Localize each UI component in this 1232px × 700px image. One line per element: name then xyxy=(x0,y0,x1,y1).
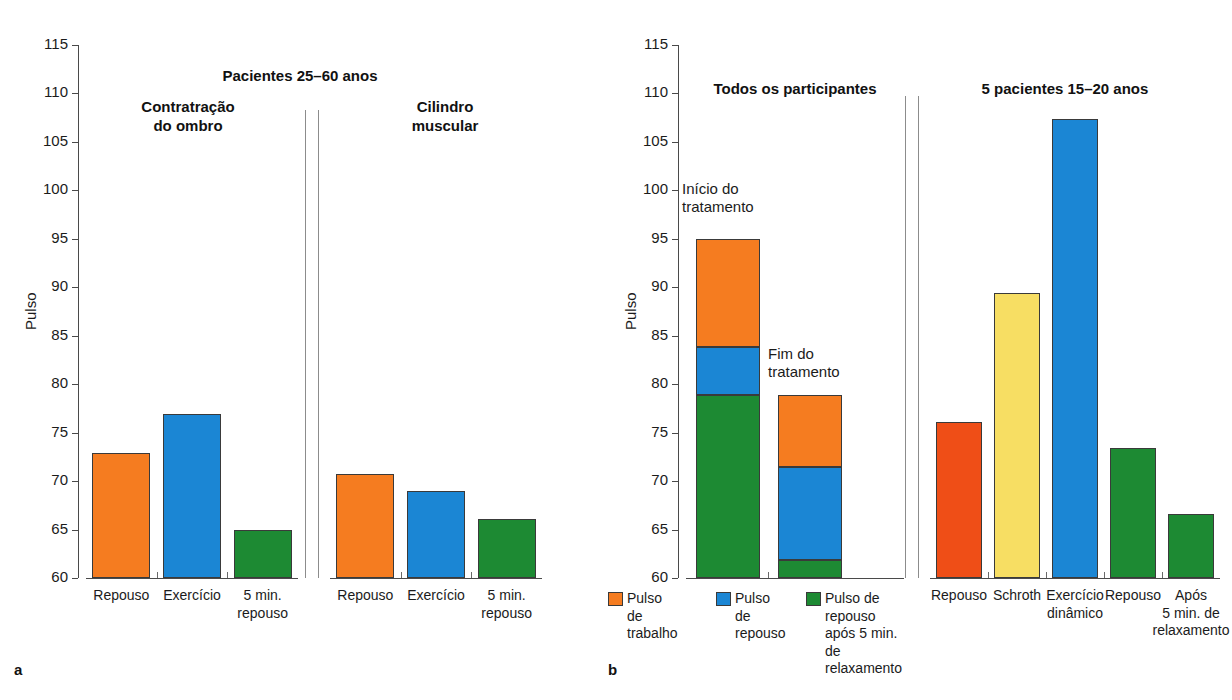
y-tick xyxy=(672,190,678,191)
stack-segment-1[interactable] xyxy=(778,467,842,560)
y-tick xyxy=(72,481,78,482)
panel-b: Todos os participantes 5 pacientes 15–20… xyxy=(600,0,1232,700)
y-tick xyxy=(672,239,678,240)
y-tick xyxy=(672,45,678,46)
y-tick xyxy=(72,45,78,46)
y-tick-label: 75 xyxy=(630,423,668,440)
y-tick xyxy=(72,142,78,143)
legend-label-line: de relaxamento xyxy=(825,643,902,678)
bar-panel-b-right-4[interactable] xyxy=(1168,514,1214,578)
y-tick xyxy=(672,384,678,385)
y-tick xyxy=(672,433,678,434)
y-tick xyxy=(72,287,78,288)
y-tick-label: 60 xyxy=(630,568,668,585)
legend-label-0: Pulso detrabalho xyxy=(627,590,678,643)
y-tick-label: 75 xyxy=(30,423,68,440)
y-tick-label: 115 xyxy=(30,35,68,52)
x-category-line: Após xyxy=(1145,587,1232,605)
bar-panel-b-right-0[interactable] xyxy=(936,422,982,578)
stack-segment-1[interactable] xyxy=(696,347,760,394)
x-category-line: dinâmico xyxy=(1029,605,1121,623)
y-tick xyxy=(672,530,678,531)
y-tick xyxy=(72,239,78,240)
x-category-panel-a-g0-2: 5 min.repouso xyxy=(208,587,318,622)
y-tick-label: 80 xyxy=(30,374,68,391)
legend-swatch-0 xyxy=(608,592,623,606)
y-tick xyxy=(672,578,678,579)
y-tick-label: 95 xyxy=(30,229,68,246)
panel-b-x-axis-left xyxy=(686,578,904,579)
x-tick xyxy=(988,572,989,578)
x-category-line: 5 min. de xyxy=(1145,605,1232,623)
bar-panel-a-g0-0[interactable] xyxy=(92,453,150,578)
y-tick-label: 100 xyxy=(30,180,68,197)
stack-segment-2[interactable] xyxy=(778,395,842,467)
panel-a-x-axis-group1 xyxy=(86,578,298,579)
panel-a-letter: a xyxy=(14,661,22,678)
x-tick xyxy=(1162,572,1163,578)
panel-b-divider-right xyxy=(918,96,919,578)
y-tick-label: 65 xyxy=(630,520,668,537)
y-tick-label: 95 xyxy=(630,229,668,246)
bar-panel-b-right-3[interactable] xyxy=(1110,448,1156,578)
y-tick xyxy=(672,287,678,288)
y-tick-label: 100 xyxy=(630,180,668,197)
y-tick xyxy=(72,190,78,191)
legend-label-line: Pulso de xyxy=(627,590,678,625)
x-tick xyxy=(471,572,472,578)
legend-label-2: Pulso derepousoapós 5 min.de relaxamento xyxy=(825,590,902,678)
y-tick xyxy=(672,336,678,337)
y-tick-label: 70 xyxy=(30,471,68,488)
bar-panel-b-right-1[interactable] xyxy=(994,293,1040,578)
y-tick xyxy=(672,142,678,143)
legend-label-line: Pulso de xyxy=(735,590,786,625)
legend-label-line: trabalho xyxy=(627,625,678,643)
y-tick xyxy=(72,530,78,531)
bar-panel-a-g1-1[interactable] xyxy=(407,491,465,578)
legend-label-1: Pulso derepouso xyxy=(735,590,786,643)
y-tick-label: 80 xyxy=(630,374,668,391)
x-category-line: 5 min. xyxy=(452,587,562,605)
bar-panel-b-right-2[interactable] xyxy=(1052,119,1098,578)
y-tick-label: 60 xyxy=(30,568,68,585)
y-tick xyxy=(72,93,78,94)
panel-a-x-axis-group2 xyxy=(330,578,542,579)
x-category-line: 5 min. xyxy=(208,587,318,605)
stack-segment-2[interactable] xyxy=(696,239,760,348)
group-title-contratracao-line1: Contratração xyxy=(78,98,298,116)
stacked-bar-1[interactable] xyxy=(778,0,842,578)
panel-b-divider-left xyxy=(905,96,906,578)
bar-panel-a-g1-2[interactable] xyxy=(478,519,536,578)
x-tick xyxy=(1104,572,1105,578)
legend-label-line: após 5 min. xyxy=(825,625,902,643)
y-tick xyxy=(72,336,78,337)
bar-panel-a-g0-2[interactable] xyxy=(234,530,292,578)
stack-segment-0[interactable] xyxy=(778,560,842,578)
bar-panel-a-g1-0[interactable] xyxy=(336,474,394,578)
x-tick xyxy=(227,572,228,578)
x-tick xyxy=(1046,572,1047,578)
x-category-line: repouso xyxy=(452,605,562,623)
group-title-cilindro-line2: muscular xyxy=(335,117,555,135)
stacked-bar-0[interactable] xyxy=(696,0,760,578)
x-tick xyxy=(401,572,402,578)
y-tick-label: 110 xyxy=(30,83,68,100)
x-tick xyxy=(157,572,158,578)
panel-a: Pacientes 25–60 anos Contratração do omb… xyxy=(0,0,600,700)
panel-a-y-axis-title: Pulso xyxy=(22,292,39,330)
y-tick-label: 105 xyxy=(30,132,68,149)
y-tick-label: 115 xyxy=(630,35,668,52)
y-tick-label: 70 xyxy=(630,471,668,488)
y-axis-spine xyxy=(678,45,679,578)
x-category-panel-b-right-4: Após5 min. derelaxamento xyxy=(1145,587,1232,640)
panel-b-y-axis-title: Pulso xyxy=(622,292,639,330)
legend-label-line: repouso xyxy=(825,608,902,626)
panel-a-divider-left xyxy=(305,110,306,578)
panel-b-letter: b xyxy=(608,661,617,678)
legend-label-line: repouso xyxy=(735,625,786,643)
stack-segment-0[interactable] xyxy=(696,395,760,578)
x-tick xyxy=(768,572,769,578)
y-tick-label: 65 xyxy=(30,520,68,537)
bar-panel-a-g0-1[interactable] xyxy=(163,414,221,578)
panel-a-divider-right xyxy=(318,110,319,578)
